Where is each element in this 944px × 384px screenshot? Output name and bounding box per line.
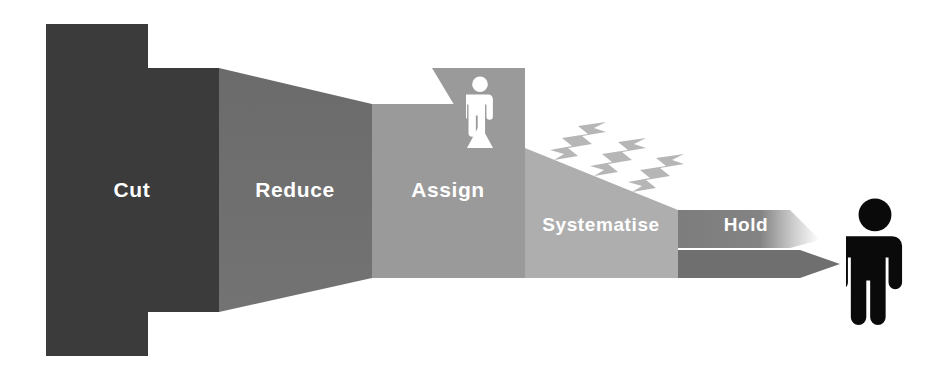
stage-label-assign: Assign — [411, 178, 485, 201]
funnel-svg: Cut Reduce Assign Systematise Hold — [0, 0, 944, 384]
hold-lower-arrow — [678, 250, 840, 278]
stage-label-cut: Cut — [114, 178, 151, 201]
stage-label-reduce: Reduce — [255, 178, 334, 201]
cut-body — [148, 68, 219, 312]
lightning-bolt-icon — [550, 122, 606, 160]
stage-shape-assign — [372, 68, 525, 278]
lightning-bolt-icon — [628, 154, 684, 192]
stage-label-hold: Hold — [724, 214, 769, 235]
lightning-bolt-icon — [590, 138, 646, 176]
stage-label-systematise: Systematise — [542, 214, 660, 235]
funnel-diagram: Cut Reduce Assign Systematise Hold — [0, 0, 944, 384]
large-person-icon — [834, 198, 902, 325]
